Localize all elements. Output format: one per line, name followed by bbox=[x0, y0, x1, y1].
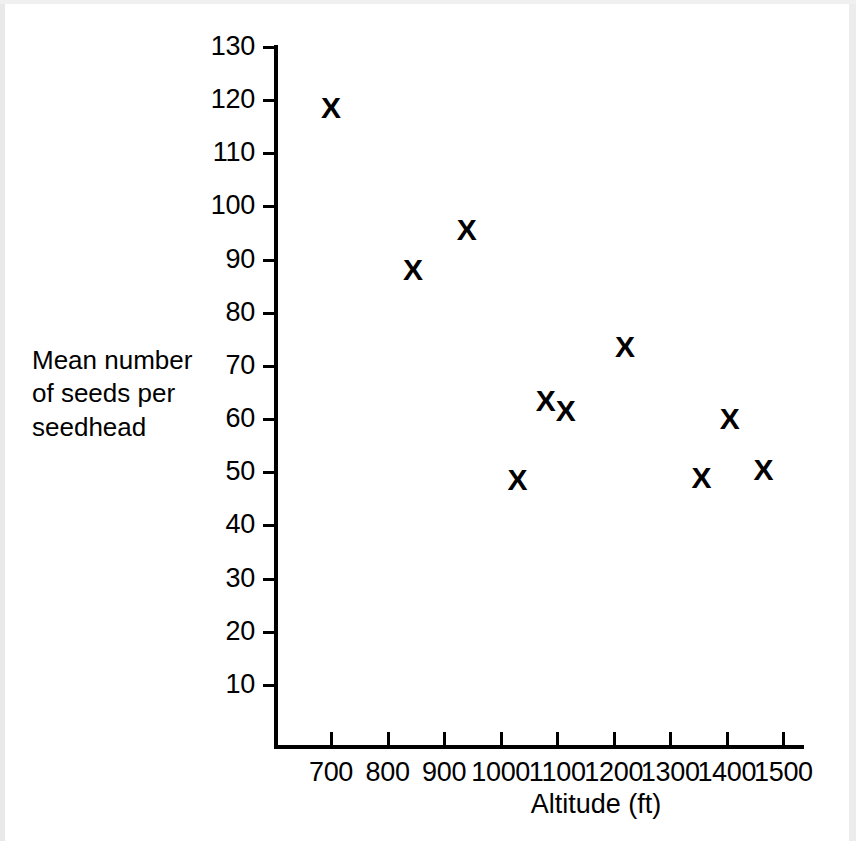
y-tick-40 bbox=[263, 524, 276, 527]
y-tick-50 bbox=[263, 471, 276, 474]
y-tick-label-130: 130 bbox=[185, 33, 255, 60]
y-tick-label-30: 30 bbox=[185, 565, 255, 592]
y-axis-title-line-3: seedhead bbox=[32, 411, 252, 444]
x-tick-1000 bbox=[500, 732, 503, 745]
y-tick-70 bbox=[263, 365, 276, 368]
x-axis-title: Altitude (ft) bbox=[396, 790, 796, 820]
y-axis-title: Mean number of seeds per seedhead bbox=[32, 344, 252, 444]
y-tick-label-20: 20 bbox=[185, 618, 255, 645]
data-point: X bbox=[556, 396, 576, 426]
x-axis-line bbox=[274, 745, 804, 749]
data-point: X bbox=[508, 465, 528, 495]
data-point: X bbox=[403, 255, 423, 285]
data-point: X bbox=[457, 215, 477, 245]
x-tick-800 bbox=[387, 732, 390, 745]
x-tick-1200 bbox=[613, 732, 616, 745]
figure-page: 102030405060708090100110120130 700800900… bbox=[0, 0, 856, 841]
y-tick-label-120: 120 bbox=[185, 86, 255, 113]
y-tick-100 bbox=[263, 205, 276, 208]
data-point: X bbox=[754, 455, 774, 485]
x-tick-1100 bbox=[556, 732, 559, 745]
y-axis-title-line-2: of seeds per bbox=[32, 377, 252, 410]
y-tick-10 bbox=[263, 684, 276, 687]
y-tick-label-50: 50 bbox=[185, 458, 255, 485]
data-point: X bbox=[536, 386, 556, 416]
y-axis-title-line-1: Mean number bbox=[32, 344, 252, 377]
x-tick-1500 bbox=[782, 732, 785, 745]
x-tick-700 bbox=[330, 732, 333, 745]
y-tick-label-100: 100 bbox=[185, 192, 255, 219]
y-tick-label-40: 40 bbox=[185, 511, 255, 538]
y-axis-line bbox=[274, 45, 278, 749]
y-tick-label-90: 90 bbox=[185, 246, 255, 273]
x-tick-1300 bbox=[669, 732, 672, 745]
y-tick-label-110: 110 bbox=[185, 139, 255, 166]
scatter-plot: 102030405060708090100110120130 700800900… bbox=[0, 0, 856, 841]
y-tick-label-10: 10 bbox=[185, 671, 255, 698]
data-point: X bbox=[691, 463, 711, 493]
y-tick-60 bbox=[263, 418, 276, 421]
y-tick-80 bbox=[263, 312, 276, 315]
data-point: X bbox=[321, 93, 341, 123]
y-tick-130 bbox=[263, 46, 276, 49]
y-tick-30 bbox=[263, 578, 276, 581]
x-tick-label-1500: 1500 bbox=[738, 759, 828, 786]
y-tick-label-80: 80 bbox=[185, 299, 255, 326]
data-point: X bbox=[720, 404, 740, 434]
y-tick-90 bbox=[263, 259, 276, 262]
y-tick-20 bbox=[263, 631, 276, 634]
x-tick-900 bbox=[443, 732, 446, 745]
y-tick-120 bbox=[263, 99, 276, 102]
x-tick-1400 bbox=[726, 732, 729, 745]
y-tick-110 bbox=[263, 152, 276, 155]
data-point: X bbox=[615, 332, 635, 362]
